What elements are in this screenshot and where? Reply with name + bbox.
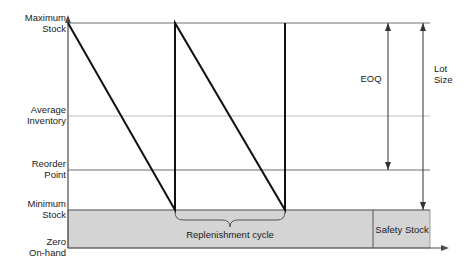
label-maximum-stock-line2: Stock [42, 23, 66, 34]
lot-size-arrow-bottom [420, 202, 426, 210]
lot-size-arrow-top [420, 23, 426, 31]
inventory-diagram: Maximum Stock Average Inventory Reorder … [0, 0, 473, 270]
label-average-inventory-line2: Inventory [27, 115, 66, 126]
label-reorder-point-line2: Point [44, 169, 66, 180]
eoq-arrow-top [385, 23, 391, 31]
label-minimum-stock-line2: Stock [42, 209, 66, 220]
diagram-canvas: Maximum Stock Average Inventory Reorder … [0, 0, 473, 270]
label-zero-on-hand-line2: On-hand [29, 247, 66, 258]
eoq-label: EOQ [360, 73, 381, 84]
label-maximum-stock-line1: Maximum [25, 12, 66, 23]
lot-size-label-line2: Size [434, 74, 452, 85]
lot-size-label-line1: Lot [434, 63, 448, 74]
label-minimum-stock-line1: Minimum [27, 198, 66, 209]
replenishment-cycle-label: Replenishment cycle [186, 229, 274, 240]
label-zero-on-hand-line1: Zero [46, 236, 66, 247]
label-reorder-point-line1: Reorder [32, 158, 66, 169]
label-average-inventory-line1: Average [31, 104, 66, 115]
eoq-arrow-bottom [385, 162, 391, 170]
x-axis-arrowhead [441, 245, 449, 251]
safety-stock-label: Safety Stock [375, 224, 429, 235]
